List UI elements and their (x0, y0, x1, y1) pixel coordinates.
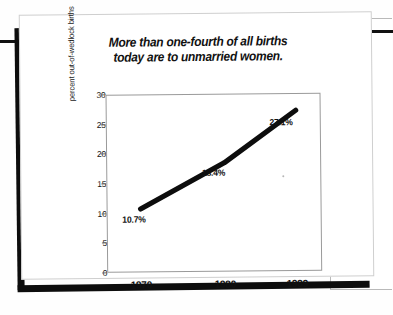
chart-figure: percent out-of-wedlock births 0 5 10 15 … (50, 71, 352, 274)
data-label-1980: 18.4% (202, 168, 225, 178)
chart-title-line-2: today are to unmarried women. (60, 48, 336, 66)
page-scan: More than one-fourth of all births today… (0, 0, 393, 315)
x-tick-label-1980: 1980 (197, 277, 254, 290)
y-axis-ticks: 0 5 10 15 20 25 30 (76, 95, 108, 273)
chart-card: More than one-fourth of all births today… (19, 11, 375, 279)
data-label-1970: 10.7% (122, 214, 145, 224)
data-label-1989: 27.1% (269, 117, 292, 127)
chart-title: More than one-fourth of all births today… (60, 33, 336, 66)
y-axis-title: percent out-of-wedlock births (66, 0, 79, 101)
scan-speck (282, 175, 284, 177)
x-tick-label-1970: 1970 (113, 278, 170, 291)
x-tick-label-1989: 1989 (269, 277, 326, 290)
